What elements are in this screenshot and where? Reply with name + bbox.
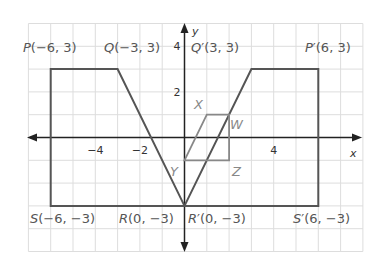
y-axis-arrow-up-icon — [181, 23, 189, 33]
label-coords: (6, 3) — [316, 40, 351, 55]
label-letter: R — [188, 211, 197, 226]
label-p-prime: P′(6, 3) — [305, 40, 351, 55]
label-letter: P — [305, 40, 313, 55]
label-q-prime: Q′(3, 3) — [191, 40, 239, 55]
vertex-label-z: Z — [231, 164, 242, 179]
label-letter: S — [293, 211, 301, 226]
label-r: R(0, −3) — [119, 211, 174, 226]
label-coords: (−6, 3) — [31, 40, 77, 55]
tick-labels: −4 −2 4 4 2 — [87, 40, 277, 156]
vertex-label-w: W — [230, 117, 244, 132]
vertex-label-x: X — [193, 97, 204, 112]
x-tick-label: −2 — [132, 144, 148, 157]
label-coords: (3, 3) — [204, 40, 239, 55]
y-axis-label: y — [191, 25, 199, 38]
label-coords: (0, −3) — [128, 211, 174, 226]
label-coords: (−6, −3) — [38, 211, 95, 226]
label-r-prime: R′(0, −3) — [188, 211, 246, 226]
label-letter: R — [119, 211, 128, 226]
label-letter: Q — [191, 40, 201, 55]
label-letter: Q — [104, 40, 114, 55]
label-coords: (0, −3) — [200, 211, 246, 226]
x-tick-label: 4 — [270, 144, 277, 157]
label-s-prime: S′(6, −3) — [293, 211, 350, 226]
x-axis-arrow-right-icon — [352, 134, 362, 142]
y-tick-label: 4 — [174, 40, 181, 53]
coordinate-plane: x y −4 −2 4 4 2 P(−6, 3) Q(−3, 3) Q′(3, … — [0, 0, 383, 265]
label-letter: P — [23, 40, 31, 55]
label-q: Q(−3, 3) — [104, 40, 160, 55]
label-p: P(−6, 3) — [23, 40, 77, 55]
y-tick-label: 2 — [174, 86, 181, 99]
label-coords: (−3, 3) — [114, 40, 160, 55]
x-axis-label: x — [349, 147, 357, 160]
label-s: S(−6, −3) — [30, 211, 95, 226]
label-coords: (6, −3) — [304, 211, 350, 226]
label-letter: S — [30, 211, 38, 226]
x-tick-label: −4 — [87, 144, 103, 157]
vertex-label-y: Y — [170, 164, 179, 179]
point-labels: P(−6, 3) Q(−3, 3) Q′(3, 3) P′(6, 3) S(−6… — [23, 40, 351, 226]
y-axis-arrow-down-icon — [181, 242, 189, 252]
